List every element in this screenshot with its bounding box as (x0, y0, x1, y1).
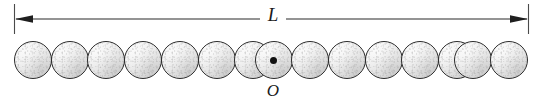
right-arrowhead (510, 15, 528, 23)
sphere (401, 41, 439, 79)
sphere (291, 41, 329, 79)
length-label: L (262, 2, 284, 28)
sphere (14, 41, 52, 79)
left-arrowhead (15, 15, 33, 23)
sphere (454, 41, 492, 79)
sphere (198, 41, 236, 79)
origin-label: O (262, 81, 284, 101)
sphere (124, 41, 162, 79)
sphere (490, 41, 528, 79)
sphere (365, 41, 403, 79)
sphere (161, 41, 199, 79)
physics-diagram-figure: L O (0, 0, 541, 102)
sphere (328, 41, 366, 79)
origin-dot-icon (270, 57, 277, 64)
sphere (51, 41, 89, 79)
sphere (87, 41, 125, 79)
